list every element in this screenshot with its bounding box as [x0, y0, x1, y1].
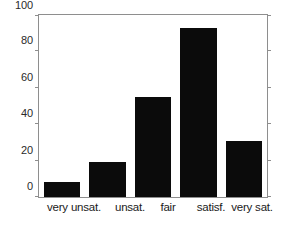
- y-axis-label-0: 0: [27, 181, 33, 192]
- x-axis-label-very-unsat: very unsat.: [47, 202, 101, 214]
- bars-layer: [39, 15, 267, 197]
- x-axis-label-fair: fair: [160, 202, 175, 214]
- y-axis-label-40: 40: [21, 108, 33, 119]
- y-tick-right-0: [267, 196, 271, 197]
- bar-chart-figure: 0 20 40 60 80 100 very unsat. unsat. fai…: [0, 0, 284, 232]
- y-axis-label-80: 80: [21, 35, 33, 46]
- bar-fair[interactable]: [135, 97, 171, 197]
- y-axis-label-60: 60: [21, 71, 33, 82]
- bar-very-unsat[interactable]: [44, 182, 80, 197]
- y-tick-right-100: [267, 15, 271, 16]
- y-tick-right-20: [267, 160, 271, 161]
- x-axis-label-satisf: satisf.: [197, 202, 226, 214]
- plot-area: 0 20 40 60 80 100: [38, 14, 268, 198]
- x-axis-label-very-sat: very sat.: [231, 202, 273, 214]
- y-tick-right-80: [267, 50, 271, 51]
- y-tick-right-60: [267, 87, 271, 88]
- bar-very-sat[interactable]: [226, 141, 262, 197]
- x-axis-label-unsat: unsat.: [115, 202, 145, 214]
- y-axis-label-100: 100: [15, 0, 33, 11]
- bar-unsat[interactable]: [89, 162, 125, 197]
- y-tick-right-40: [267, 123, 271, 124]
- bar-satisf[interactable]: [180, 28, 216, 197]
- y-axis-label-20: 20: [21, 144, 33, 155]
